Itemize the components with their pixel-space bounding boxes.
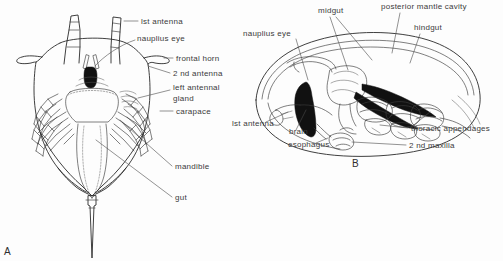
label-gland: gland	[173, 94, 194, 103]
panel-letter-a: A	[4, 246, 11, 257]
label-thoracic-appendages: thoracic appendages	[411, 124, 490, 133]
left-lateral-horn	[17, 56, 42, 64]
label-nauplius-eye-b: nauplius eye	[243, 29, 291, 38]
anatomy-figure: lst antenna nauplius eye frontal horn 2 …	[0, 0, 503, 261]
label-first-antenna-b: lst antenna	[232, 119, 274, 128]
telson-spine	[88, 196, 96, 258]
label-left-antennal: left antennal	[173, 83, 220, 92]
leader-gut	[96, 140, 172, 197]
panel-a-drawing	[17, 15, 173, 258]
label-esophagus: esophagus	[288, 140, 329, 149]
label-second-maxilla: 2 nd maxilla	[409, 141, 455, 150]
label-hindgut: hindgut	[414, 23, 443, 32]
leader-left-antennal-gland	[138, 90, 170, 98]
label-second-antenna: 2 nd antenna	[173, 69, 223, 78]
leader-second-antenna	[148, 66, 170, 73]
label-posterior-mantle-cavity: posterior mantle cavity	[381, 2, 467, 11]
abdomen-outline	[77, 124, 108, 198]
label-frontal-horn: frontal horn	[176, 54, 219, 63]
label-gut: gut	[175, 193, 187, 202]
leader-midgut-1	[330, 17, 348, 70]
label-first-antenna: lst antenna	[141, 17, 183, 26]
second-maxilla-drawing	[329, 128, 354, 150]
label-mandible: mandible	[175, 162, 210, 171]
labrum-outline	[66, 88, 119, 122]
panel-a-labels: lst antenna nauplius eye frontal horn 2 …	[137, 17, 223, 202]
figure-container: lst antenna nauplius eye frontal horn 2 …	[0, 0, 503, 261]
leader-second-maxilla	[352, 142, 406, 145]
leader-midgut-2	[336, 17, 372, 60]
label-nauplius-eye: nauplius eye	[137, 34, 185, 43]
label-brain: brain	[289, 127, 308, 136]
esophagus-outline	[314, 128, 326, 139]
label-midgut: midgut	[318, 6, 344, 15]
leader-mandible	[120, 120, 172, 166]
carapace-outline	[34, 38, 150, 194]
leader-nauplius-eye	[95, 40, 135, 66]
label-carapace: carapace	[176, 107, 211, 116]
panel-letter-b: B	[352, 158, 359, 169]
leader-hindgut	[410, 34, 420, 63]
carapace-valve-outline	[256, 33, 480, 157]
